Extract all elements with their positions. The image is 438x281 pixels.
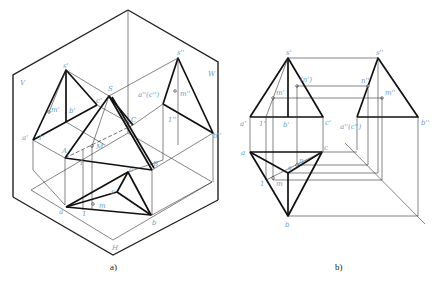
m-point xyxy=(92,203,95,206)
label-c: c xyxy=(129,166,133,174)
wh-axis xyxy=(128,133,212,182)
label-b-m-prime: m' xyxy=(276,89,285,97)
m-dprime-point xyxy=(174,90,177,93)
label-b-c: c xyxy=(324,144,328,152)
label-one-dprime: 1'' xyxy=(168,116,176,124)
front-view-outline xyxy=(33,70,97,140)
pyramid-sc-edge xyxy=(109,96,133,125)
panel-b: s' s'' (n') n'' m' m'' a' 1' b' c' a''(c… xyxy=(240,49,429,272)
label-b-n-dprime: n'' xyxy=(361,77,369,85)
label-b-s-dprime: s'' xyxy=(376,49,384,57)
pyramid-sb-edge-2 xyxy=(112,97,154,168)
miter-line xyxy=(345,143,425,224)
w-plane-frame xyxy=(128,10,218,200)
label-H: H xyxy=(111,244,119,252)
side-view-triangle xyxy=(357,58,418,117)
label-b-b: b xyxy=(285,221,290,229)
m-prime-point xyxy=(48,111,51,114)
caption-b: b) xyxy=(335,262,343,272)
diagram-canvas: V W H s' s'' S a' 1' m' b' c' a''(c'') m… xyxy=(0,0,438,281)
proj-ha xyxy=(33,170,65,205)
front-view-triangle xyxy=(250,58,323,117)
label-I: I xyxy=(79,159,83,167)
caption-a: a) xyxy=(110,262,117,272)
label-S: S xyxy=(108,85,113,93)
proj-C-c2 xyxy=(133,104,163,125)
label-s-prime: s' xyxy=(63,62,69,70)
label-b-a: a xyxy=(241,149,245,157)
label-b-one: 1 xyxy=(260,180,264,188)
label-V: V xyxy=(20,79,26,87)
proj-hb xyxy=(152,182,212,215)
label-b-s: s xyxy=(288,164,292,172)
label-a-dprime-c-dprime: a''(c'') xyxy=(138,91,160,99)
label-b-n: n xyxy=(299,157,304,165)
label-b-s-prime: s' xyxy=(286,49,292,57)
top-view-outline xyxy=(66,172,151,215)
label-C: C xyxy=(131,116,137,124)
label-b-one-prime: 1' xyxy=(259,120,265,128)
label-b-a-dprime-c-dprime: a''(c'') xyxy=(340,123,362,131)
label-m-dprime: m'' xyxy=(180,90,191,98)
label-b-prime: b' xyxy=(69,107,75,115)
label-b: b xyxy=(152,219,157,227)
panel-a: V W H s' s'' S a' 1' m' b' c' a''(c'') m… xyxy=(13,10,221,272)
label-b-b-dprime: b'' xyxy=(421,119,429,127)
label-W: W xyxy=(208,70,216,78)
label-one-prime: 1' xyxy=(38,134,44,142)
label-a: a xyxy=(59,208,63,216)
n-point-b xyxy=(296,164,299,167)
label-b-m: m xyxy=(276,180,283,188)
proj-s-S xyxy=(66,70,109,96)
label-s-dprime: s'' xyxy=(177,49,185,57)
label-c-prime: c' xyxy=(96,97,102,105)
label-m: m xyxy=(99,202,106,210)
label-b-dprime: b'' xyxy=(213,132,221,140)
label-m-prime: m' xyxy=(51,106,60,114)
label-b-b-prime: b' xyxy=(283,121,289,129)
proj-a-A xyxy=(33,140,65,158)
m-point-b xyxy=(272,177,275,180)
label-a-prime: a' xyxy=(22,134,28,142)
label-b-m-dprime: m'' xyxy=(385,89,396,97)
label-M: M xyxy=(95,143,104,151)
label-s: s xyxy=(111,188,115,196)
pyramid-projection-diagram: V W H s' s'' S a' 1' m' b' c' a''(c'') m… xyxy=(0,0,438,281)
label-b-a-prime: a' xyxy=(240,120,246,128)
label-b-n-prime: (n') xyxy=(300,76,312,84)
v-plane-frame xyxy=(13,10,128,197)
label-b-c-prime: c' xyxy=(325,119,331,127)
label-B: B xyxy=(152,160,158,168)
label-one: 1 xyxy=(82,210,86,218)
pyramid-front-edges xyxy=(65,96,152,170)
label-A: A xyxy=(61,147,67,155)
